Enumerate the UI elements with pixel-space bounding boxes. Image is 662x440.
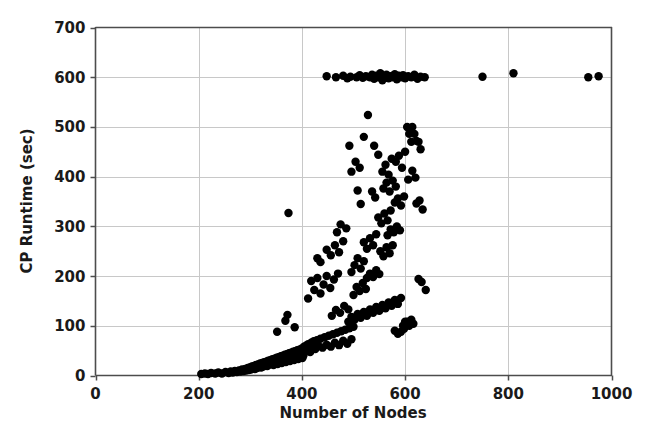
x-tick-label: 0: [90, 385, 100, 403]
data-point: [392, 182, 400, 190]
data-point: [384, 170, 392, 178]
x-tick-label: 800: [493, 385, 524, 403]
x-tick-label: 1000: [591, 385, 633, 403]
data-point: [357, 264, 365, 272]
data-point: [345, 142, 353, 150]
data-point: [290, 323, 298, 331]
figure-background: [0, 0, 662, 440]
data-point: [334, 269, 342, 277]
data-point: [401, 148, 409, 156]
data-point: [357, 200, 365, 208]
data-point: [322, 72, 330, 80]
data-point: [584, 73, 592, 81]
scatter-plot-figure: 0100200300400500600700 02004006008001000…: [0, 0, 662, 440]
data-point: [421, 73, 429, 81]
data-point: [333, 228, 341, 236]
data-point: [353, 186, 361, 194]
data-point: [400, 192, 408, 200]
data-point: [416, 145, 424, 153]
data-point: [396, 226, 404, 234]
data-point: [370, 142, 378, 150]
y-tick-label: 400: [54, 168, 85, 186]
data-point: [313, 274, 321, 282]
y-axis-title: CP Runtime (sec): [18, 128, 36, 273]
data-point: [398, 163, 406, 171]
data-point: [418, 205, 426, 213]
data-point: [594, 72, 602, 80]
data-point: [342, 224, 350, 232]
x-axis-title: Number of Nodes: [279, 404, 426, 422]
data-point: [347, 335, 355, 343]
data-point: [381, 161, 389, 169]
y-tick-label: 300: [54, 218, 85, 236]
x-tick-label: 200: [183, 385, 214, 403]
data-point: [316, 258, 324, 266]
data-point: [327, 251, 335, 259]
data-point: [397, 201, 405, 209]
y-tick-label: 600: [54, 69, 85, 87]
data-point: [347, 167, 355, 175]
data-point: [375, 270, 383, 278]
data-point: [422, 286, 430, 294]
data-point: [364, 111, 372, 119]
data-point: [355, 163, 363, 171]
data-point: [411, 173, 419, 181]
x-tick-label: 400: [286, 385, 317, 403]
data-point: [478, 73, 486, 81]
data-point: [372, 230, 380, 238]
data-point: [409, 320, 417, 328]
data-point: [284, 209, 292, 217]
data-point: [360, 133, 368, 141]
data-point: [386, 206, 394, 214]
y-tick-label: 500: [54, 118, 85, 136]
data-point: [304, 294, 312, 302]
data-point: [417, 278, 425, 286]
data-point: [391, 327, 399, 335]
data-point: [362, 285, 370, 293]
data-point: [371, 193, 379, 201]
y-tick-label: 200: [54, 268, 85, 286]
data-point: [415, 196, 423, 204]
data-point: [332, 73, 340, 81]
data-point: [397, 294, 405, 302]
data-point: [385, 249, 393, 257]
data-point: [283, 311, 291, 319]
data-point: [412, 137, 420, 145]
data-point: [339, 237, 347, 245]
y-tick-label: 100: [54, 317, 85, 335]
data-point: [316, 289, 324, 297]
data-point: [404, 175, 412, 183]
data-point: [322, 272, 330, 280]
data-point: [344, 305, 352, 313]
data-point: [383, 216, 391, 224]
data-point: [389, 241, 397, 249]
chart-canvas: 0100200300400500600700 02004006008001000…: [0, 0, 662, 440]
x-tick-label: 600: [389, 385, 420, 403]
y-tick-label: 0: [75, 367, 85, 385]
data-point: [374, 151, 382, 159]
data-point: [360, 257, 368, 265]
data-point: [369, 241, 377, 249]
data-point: [326, 284, 334, 292]
y-tick-label: 700: [54, 19, 85, 37]
data-point: [335, 248, 343, 256]
data-point: [509, 69, 517, 77]
data-point: [273, 328, 281, 336]
